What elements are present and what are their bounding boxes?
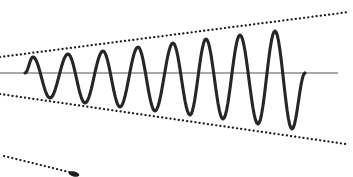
- figure-canvas: Divergent oscillation with exponentially…: [0, 0, 353, 177]
- oscillation-chart: Divergent oscillation with exponentially…: [0, 0, 353, 177]
